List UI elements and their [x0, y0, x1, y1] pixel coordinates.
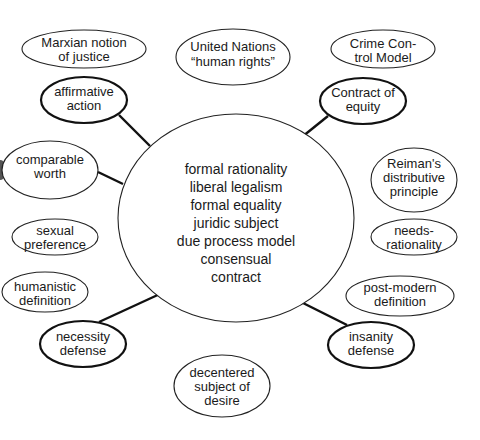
- central-concept: formal rationality liberal legalism form…: [118, 114, 354, 322]
- node-label: Crime Con-: [350, 36, 416, 51]
- node-label: humanistic: [14, 279, 77, 294]
- node-crime-control: Crime Con- trol Model: [331, 30, 435, 68]
- node-label: subject of: [194, 379, 250, 394]
- node-label: needs-: [394, 223, 434, 238]
- center-line: formal rationality: [185, 161, 288, 177]
- node-reiman: Reiman's distributive principle: [371, 148, 457, 212]
- connector-necessity-defense: [99, 293, 162, 322]
- node-label: equity: [346, 99, 381, 114]
- node-insanity-defense: insanity defense: [328, 322, 414, 368]
- node-label: action: [67, 98, 102, 113]
- node-sexual-preference: sexual preference: [12, 219, 98, 255]
- connector-affirmative-action: [119, 115, 150, 146]
- node-label: definition: [19, 293, 71, 308]
- node-label: preference: [24, 237, 86, 252]
- center-line: liberal legalism: [190, 179, 283, 195]
- center-line: contract: [211, 269, 261, 285]
- node-marxian: Marxian notion of justice: [22, 30, 146, 68]
- node-label: worth: [33, 166, 66, 181]
- node-label: distributive: [383, 170, 445, 185]
- node-decentered-subject: decentered subject of desire: [174, 355, 270, 417]
- node-label: “human rights”: [191, 54, 275, 69]
- node-post-modern-definition: post-modern definition: [346, 276, 454, 316]
- node-label: post-modern: [364, 280, 437, 295]
- node-label: United Nations: [190, 39, 276, 54]
- node-label: desire: [204, 393, 239, 408]
- node-label: trol Model: [354, 50, 411, 65]
- concept-map: formal rationality liberal legalism form…: [0, 0, 480, 440]
- node-label: principle: [390, 184, 438, 199]
- node-contract-of-equity: Contract of equity: [320, 78, 406, 124]
- node-label: defense: [348, 343, 394, 358]
- node-label: decentered: [189, 365, 254, 380]
- node-label: Contract of: [331, 85, 395, 100]
- node-needs-rationality: needs- rationality: [371, 219, 457, 255]
- node-label: necessity: [56, 329, 111, 344]
- node-label: affirmative: [54, 84, 114, 99]
- connector-comparable-worth: [98, 172, 123, 184]
- node-label: insanity: [349, 329, 394, 344]
- node-label: rationality: [386, 237, 442, 252]
- node-label: sexual: [36, 223, 74, 238]
- center-line: formal equality: [190, 197, 281, 213]
- center-line: juridic subject: [193, 215, 279, 231]
- node-affirmative-action: affirmative action: [41, 77, 127, 123]
- node-label: defense: [60, 343, 106, 358]
- node-comparable-worth: comparable worth: [2, 141, 98, 199]
- node-united-nations: United Nations “human rights”: [176, 29, 290, 85]
- node-necessity-defense: necessity defense: [40, 321, 126, 367]
- node-label: Reiman's: [387, 156, 441, 171]
- node-humanistic-definition: humanistic definition: [2, 272, 88, 312]
- node-label: definition: [374, 294, 426, 309]
- node-label: Marxian notion: [41, 35, 126, 50]
- center-line: consensual: [201, 251, 272, 267]
- node-label: comparable: [16, 152, 84, 167]
- node-label: of justice: [58, 49, 109, 64]
- center-line: due process model: [177, 233, 295, 249]
